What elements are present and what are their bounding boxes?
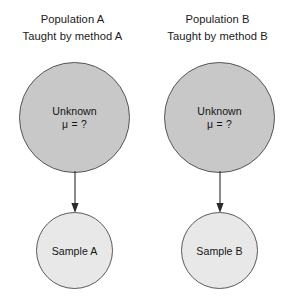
sample-label: Sample B — [196, 244, 242, 258]
group-population-b: Population B Taught by method B Unknown … — [145, 0, 290, 307]
caption-line-2: Taught by method B — [145, 28, 290, 45]
down-arrow-icon — [55, 170, 95, 214]
group-population-a: Population A Taught by method A Unknown … — [0, 0, 145, 307]
arrow-population-to-sample-a — [55, 170, 95, 214]
population-label-unknown: Unknown — [52, 104, 97, 118]
sample-circle-b: Sample B — [181, 212, 258, 289]
down-arrow-icon — [200, 170, 240, 214]
caption-line-1: Population B — [145, 11, 290, 28]
population-circle-b: Unknown μ = ? — [164, 62, 275, 173]
sample-label: Sample A — [52, 244, 98, 258]
caption-line-1: Population A — [0, 11, 145, 28]
population-label-mu: μ = ? — [207, 118, 232, 132]
sample-circle-a: Sample A — [36, 212, 113, 289]
caption-population-a: Population A Taught by method A — [0, 11, 145, 45]
caption-line-2: Taught by method A — [0, 28, 145, 45]
population-label-unknown: Unknown — [197, 104, 242, 118]
population-label-mu: μ = ? — [62, 118, 87, 132]
population-sample-diagram: Population A Taught by method A Unknown … — [0, 0, 290, 307]
population-circle-a: Unknown μ = ? — [19, 62, 130, 173]
arrow-population-to-sample-b — [200, 170, 240, 214]
caption-population-b: Population B Taught by method B — [145, 11, 290, 45]
